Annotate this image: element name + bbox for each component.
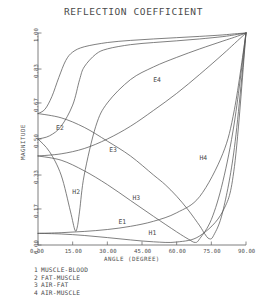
curve-e4 <box>38 33 246 114</box>
x-tick-label-1: 15.00 <box>65 248 82 254</box>
x-axis-label: ANGLE (DEGREE) <box>104 256 160 262</box>
curve-e2 <box>38 33 246 139</box>
curve-label-e2: E2 <box>56 124 64 132</box>
legend: 1MUSCLE-BLOOD2FAT-MUSCLE3AIR-FAT4AIR-MUS… <box>34 266 88 296</box>
chart-page: REFLECTION COEFFICIENT MAGNITUDE ANGLE (… <box>0 0 267 308</box>
legend-row-2: 2FAT-MUSCLE <box>34 274 88 282</box>
legend-row-3: 3AIR-FAT <box>34 281 88 289</box>
curve-label-h1: H1 <box>149 229 157 237</box>
curve-label-h2: H2 <box>72 188 80 196</box>
x-tick-label-0: 0.00 <box>30 248 44 254</box>
x-tick-label-6: 90.00 <box>238 248 255 254</box>
y-tick-label-0: 1.00 <box>33 28 39 42</box>
y-axis-label: MAGNITUDE <box>20 124 26 160</box>
y-tick-label-3: 0.50 <box>33 134 39 148</box>
y-tick-label-5: 0.17 <box>33 204 39 218</box>
axes <box>38 33 246 245</box>
curve-h2 <box>38 33 246 231</box>
legend-key-2: 2 <box>34 274 41 282</box>
x-tick-label-4: 60.00 <box>169 248 186 254</box>
curve-e1 <box>38 33 246 233</box>
curve-group <box>38 33 246 242</box>
tick-marks <box>38 33 246 245</box>
y-tick-label-4: 0.33 <box>33 170 39 184</box>
curve-label-h4: H4 <box>199 154 207 162</box>
legend-row-4: 4AIR-MUSCLE <box>34 289 88 297</box>
curve-e3 <box>38 33 246 156</box>
legend-label-4: AIR-MUSCLE <box>41 289 80 296</box>
x-tick-label-3: 45.00 <box>134 248 151 254</box>
y-tick-label-2: 0.67 <box>33 98 39 112</box>
legend-label-3: AIR-FAT <box>41 281 68 288</box>
legend-label-1: MUSCLE-BLOOD <box>41 266 88 273</box>
x-tick-label-5: 75.00 <box>203 248 220 254</box>
legend-key-4: 4 <box>34 289 41 297</box>
x-tick-label-2: 30.00 <box>99 248 116 254</box>
curve-label-e4: E4 <box>153 76 161 84</box>
legend-row-1: 1MUSCLE-BLOOD <box>34 266 88 274</box>
legend-label-2: FAT-MUSCLE <box>41 274 80 281</box>
curve-h3 <box>38 33 246 242</box>
curve-label-e1: E1 <box>119 218 127 226</box>
y-tick-label-1: 0.83 <box>33 64 39 78</box>
legend-key-3: 3 <box>34 281 41 289</box>
curve-label-h3: H3 <box>132 194 140 202</box>
curve-label-e3: E3 <box>109 146 117 154</box>
legend-key-1: 1 <box>34 266 41 274</box>
